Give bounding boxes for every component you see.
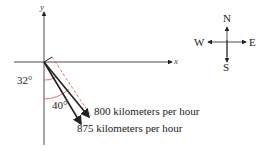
compass-east: E [249, 37, 256, 48]
compass-west: W [194, 37, 204, 48]
dashed-edge [44, 57, 52, 62]
compass-north: N [223, 13, 231, 24]
vector-label-875: 875 kilometers per hour [77, 123, 182, 134]
x-axis-label: x [174, 57, 178, 66]
compass-south: S [223, 62, 229, 73]
angle-label-32: 32° [17, 75, 32, 86]
vector-label-800: 800 kilometers per hour [94, 106, 199, 117]
y-axis-label: y [40, 3, 44, 12]
angle-label-40: 40° [52, 100, 67, 111]
